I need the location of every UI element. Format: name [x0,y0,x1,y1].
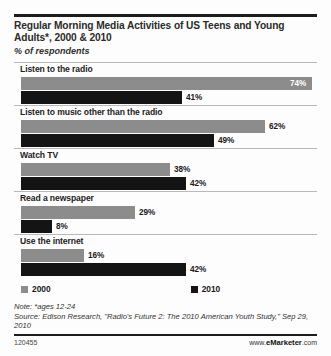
bar-row: 42% [14,177,317,190]
url-prefix: www. [249,339,266,346]
bar-row: 41% [14,91,317,104]
bar-2010 [21,220,52,233]
chart-sheet: Regular Morning Media Activities of US T… [14,14,317,347]
bar-group: Watch TV38%42% [14,148,317,190]
bar-row: 74% [14,77,317,90]
bar-value-label: 62% [269,121,285,132]
legend-item-2010: 2010 [191,284,221,294]
bar-2010 [21,91,182,104]
bar-row: 8% [14,220,317,233]
legend-swatch-2010-icon [191,286,198,293]
url-brand: eMarketer [266,338,302,347]
bar-value-label: 38% [174,164,190,175]
bar-2000 [21,77,312,90]
bar-2000 [21,249,84,262]
note-text: Note: *ages 12-24 [14,302,317,312]
chart-subtitle: % of respondents [14,44,317,57]
chart-legend: 2000 2010 [14,277,317,294]
bar-2000 [21,206,135,219]
chart-plot-area: Listen to the radio74%41%Listen to music… [14,57,317,276]
bar-group: Listen to music other than the radio62%4… [14,105,317,147]
bar-row: 62% [14,120,317,133]
bar-value-label: 49% [218,135,234,146]
bar-2010 [21,134,214,147]
bar-group: Use the internet16%42% [14,234,317,276]
bar-row: 42% [14,263,317,276]
category-label: Watch TV [14,149,317,163]
legend-label-2000: 2000 [32,284,51,294]
notes-block: Note: *ages 12-24 Source: Edison Researc… [14,294,317,331]
legend-label-2010: 2010 [202,284,221,294]
bar-value-label: 16% [88,250,104,261]
bar-2000 [21,120,265,133]
bar-group: Listen to the radio74%41% [14,62,317,104]
url-suffix: .com [302,339,317,346]
bar-value-label: 8% [56,221,68,232]
legend-item-2000: 2000 [21,284,51,294]
category-label: Read a newspaper [14,192,317,206]
bar-row: 16% [14,249,317,262]
chart-title: Regular Morning Media Activities of US T… [14,20,317,44]
chart-id: 120455 [14,339,37,346]
footer-bar: 120455 www.eMarketer.com [14,336,317,347]
bar-row: 29% [14,206,317,219]
bar-2010 [21,263,186,276]
emarketer-url: www.eMarketer.com [249,338,317,347]
category-label: Use the internet [14,235,317,249]
bar-value-label: 42% [190,264,206,275]
bar-value-label: 29% [139,207,155,218]
bar-value-label: 42% [190,178,206,189]
legend-swatch-2000-icon [21,286,28,293]
source-text: Source: Edison Research, "Radio's Future… [14,312,317,331]
chart-page: Regular Morning Media Activities of US T… [0,0,331,356]
category-label: Listen to the radio [14,63,317,77]
bar-2010 [21,177,186,190]
bar-2000 [21,163,170,176]
title-block: Regular Morning Media Activities of US T… [14,17,317,57]
bar-value-label: 74% [290,78,306,89]
bar-value-label: 41% [186,92,202,103]
bar-group: Read a newspaper29%8% [14,191,317,233]
bar-row: 38% [14,163,317,176]
bar-row: 49% [14,134,317,147]
category-label: Listen to music other than the radio [14,106,317,120]
